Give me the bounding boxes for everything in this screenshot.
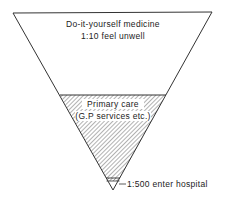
diy-medicine-title: Do-it-yourself medicine [50,19,176,29]
primary-care-subtitle: (G.P services etc.) [75,111,151,121]
hospital-label: 1:500 enter hospital [127,179,208,189]
diy-medicine-ratio: 1:10 feel unwell [50,31,176,41]
primary-care-title: Primary care [82,99,144,109]
